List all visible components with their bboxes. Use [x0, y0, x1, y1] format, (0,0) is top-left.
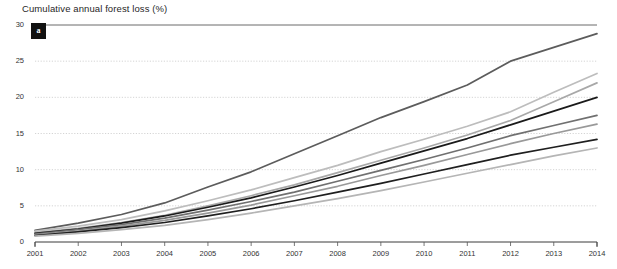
y-tick-label-10: 10	[6, 165, 24, 174]
y-tick-label-30: 30	[6, 20, 24, 29]
x-tick-label-2001: 2001	[15, 249, 55, 258]
x-tick-label-2009: 2009	[361, 249, 401, 258]
x-tick-label-2013: 2013	[534, 249, 574, 258]
chart-container: Cumulative annual forest loss (%) 051015…	[0, 0, 617, 269]
x-tick-label-2012: 2012	[491, 249, 531, 258]
x-tick-label-2010: 2010	[404, 249, 444, 258]
y-tick-label-25: 25	[6, 56, 24, 65]
y-tick-label-20: 20	[6, 92, 24, 101]
x-tick-label-2002: 2002	[58, 249, 98, 258]
y-tick-label-0: 0	[6, 237, 24, 246]
x-tick-label-2003: 2003	[101, 249, 141, 258]
x-tick-label-2004: 2004	[145, 249, 185, 258]
y-tick-label-5: 5	[6, 201, 24, 210]
line-series-3	[35, 83, 597, 233]
axes-group	[35, 242, 597, 247]
x-tick-label-2008: 2008	[318, 249, 358, 258]
annotation-badge: a	[31, 23, 46, 39]
line-chart-plot	[0, 0, 617, 269]
axis-ticks-group	[35, 242, 597, 246]
line-series-4	[35, 97, 597, 233]
x-tick-label-2011: 2011	[447, 249, 487, 258]
y-tick-label-15: 15	[6, 129, 24, 138]
x-tick-label-2014: 2014	[577, 249, 617, 258]
annotation-badge-label: a	[37, 27, 41, 35]
x-tick-label-2007: 2007	[274, 249, 314, 258]
x-tick-label-2006: 2006	[231, 249, 271, 258]
line-series-1	[35, 34, 597, 231]
x-tick-label-2005: 2005	[188, 249, 228, 258]
